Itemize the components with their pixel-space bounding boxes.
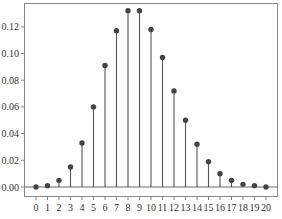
- stem-marker: [148, 27, 153, 32]
- stem-marker: [252, 183, 257, 188]
- x-tick-label: 10: [146, 202, 156, 213]
- stem-marker: [33, 184, 38, 189]
- x-tick-label: 19: [250, 202, 260, 213]
- y-tick-label: 0.06: [2, 101, 20, 112]
- x-tick-label: 7: [114, 202, 119, 213]
- stem-marker: [125, 8, 130, 13]
- x-tick-label: 15: [204, 202, 214, 213]
- x-tick-label: 16: [215, 202, 225, 213]
- x-axis: 01234567891011121314151617181920: [34, 197, 272, 214]
- stem-marker: [114, 28, 119, 33]
- x-tick-label: 18: [238, 202, 248, 213]
- stem-marker: [263, 184, 268, 189]
- x-tick-label: 13: [181, 202, 191, 213]
- x-tick-label: 8: [126, 202, 131, 213]
- stem-marker: [56, 178, 61, 183]
- stem-marker: [68, 164, 73, 169]
- y-tick-label: 0.10: [2, 48, 20, 59]
- stem-marker: [91, 104, 96, 109]
- x-tick-label: 20: [261, 202, 271, 213]
- stem-marker: [171, 88, 176, 93]
- stem-marker: [45, 183, 50, 188]
- x-tick-label: 11: [158, 202, 168, 213]
- x-tick-label: 5: [91, 202, 96, 213]
- stem-marker: [217, 171, 222, 176]
- x-tick-label: 2: [57, 202, 62, 213]
- y-tick-label: 0.12: [2, 21, 20, 32]
- x-tick-label: 3: [68, 202, 73, 213]
- stem-marker: [240, 182, 245, 187]
- y-axis: 0.000.020.040.060.080.100.12: [2, 21, 25, 192]
- stem-marker: [229, 178, 234, 183]
- x-tick-label: 12: [169, 202, 179, 213]
- y-tick-label: 0.00: [2, 182, 20, 193]
- y-tick-label: 0.02: [2, 155, 20, 166]
- stem-chart: 0.000.020.040.060.080.100.12 01234567891…: [0, 0, 282, 219]
- x-tick-label: 4: [80, 202, 85, 213]
- y-tick-label: 0.04: [2, 128, 20, 139]
- stem-marker: [160, 55, 165, 60]
- stems: [33, 8, 268, 190]
- x-tick-label: 0: [34, 202, 39, 213]
- x-tick-label: 1: [45, 202, 50, 213]
- stem-marker: [206, 159, 211, 164]
- y-tick-label: 0.08: [2, 75, 20, 86]
- x-tick-label: 9: [137, 202, 142, 213]
- x-tick-label: 17: [227, 202, 237, 213]
- stem-marker: [102, 63, 107, 68]
- stem-marker: [183, 118, 188, 123]
- stem-marker: [194, 142, 199, 147]
- x-tick-label: 6: [103, 202, 108, 213]
- stem-marker: [79, 140, 84, 145]
- stem-marker: [137, 8, 142, 13]
- x-tick-label: 14: [192, 202, 202, 213]
